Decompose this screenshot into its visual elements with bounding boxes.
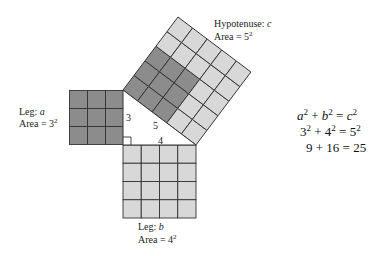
pythagorean-theorem-diagram: 3 5 4 Leg: a Area = 32 Leg: b Area = 42 … [0, 0, 390, 256]
hypotenuse-area: Area = 52 [214, 30, 253, 42]
grid-cell [141, 200, 159, 218]
grid-cell [123, 200, 141, 218]
equation-numeric-squares: 32 + 42 = 52 [300, 123, 361, 139]
grid-cell [141, 145, 159, 163]
grid-cell [106, 127, 124, 145]
grid-cell [123, 163, 141, 181]
grid-cell [70, 127, 88, 145]
grid-cell [106, 91, 124, 109]
grid-cell [106, 109, 124, 127]
grid-cell [178, 200, 196, 218]
side-c-length: 5 [153, 120, 158, 131]
grid-cell [88, 91, 106, 109]
equation-numeric-result: 9 + 16 = 25 [306, 140, 366, 155]
leg-a-label: Leg: a [19, 106, 45, 117]
grid-cell [123, 145, 141, 163]
leg-a-area: Area = 32 [19, 117, 58, 129]
grid-cell [160, 163, 178, 181]
leg-b-area: Area = 42 [138, 233, 177, 245]
grid-cell [178, 145, 196, 163]
grid-cell [88, 127, 106, 145]
grid-cell [178, 182, 196, 200]
side-a-length: 3 [126, 112, 131, 123]
side-b-length: 4 [158, 135, 163, 146]
equation-general: a2 + b2 = c2 [297, 107, 357, 123]
grid-cell [160, 145, 178, 163]
grid-cell [70, 109, 88, 127]
hypotenuse-label: Hypotenuse: c [214, 18, 272, 29]
grid-cell [160, 182, 178, 200]
grid-cell [70, 91, 88, 109]
grid-cell [141, 163, 159, 181]
grid-cell [123, 182, 141, 200]
leg-b-square [123, 145, 196, 218]
leg-b-label: Leg: b [138, 221, 164, 232]
grid-cell [88, 109, 106, 127]
grid-cell [178, 163, 196, 181]
grid-cell [141, 182, 159, 200]
leg-a-square [70, 91, 124, 145]
grid-cell [160, 200, 178, 218]
